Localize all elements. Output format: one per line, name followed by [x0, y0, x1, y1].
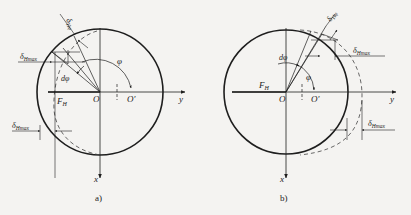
diagram-canvas: δHφ δHmax δHmax dφ φ FH O O′ y x a): [0, 0, 411, 215]
phi-angle-arc: [296, 64, 314, 90]
label-phi: φ: [306, 72, 311, 82]
label-origin: O: [279, 94, 286, 104]
label-x-axis: x: [93, 174, 98, 184]
phi-angle-arc: [82, 59, 131, 88]
label-origin-shifted: O′: [127, 94, 136, 104]
label-dphi: dφ: [61, 74, 70, 83]
label-delta-max-lower: δHmax: [368, 119, 385, 129]
label-dphi: dφ: [279, 53, 288, 62]
radial-line-3: [74, 36, 100, 92]
label-force: FH: [56, 96, 68, 107]
label-force: FH: [258, 80, 270, 91]
radial-line-1: [286, 31, 311, 92]
panel-a: δHφ δHmax δHmax dφ φ FH O O′ y x a): [12, 14, 185, 203]
delta-phi-dim: [78, 40, 88, 48]
dphi-angle-arc: [77, 66, 84, 74]
label-delta-max-lower: δHmax: [12, 121, 29, 131]
label-delta-phi: δHφ: [325, 9, 339, 23]
label-phi: φ: [117, 56, 122, 66]
label-delta-phi: δHφ: [63, 17, 77, 31]
construction-line: [322, 34, 338, 40]
label-x-axis: x: [279, 174, 284, 184]
caption-a: a): [95, 193, 102, 203]
label-y-axis: y: [178, 94, 183, 104]
label-delta-max: δHmax: [20, 52, 37, 62]
dphi-angle-arc: [278, 63, 299, 66]
radial-line-3: [286, 26, 326, 92]
radial-line-2: [63, 48, 100, 92]
panel-b: δHφ δHmax δHmax dφ φ FH O O′ y x b): [224, 9, 396, 203]
label-origin: O: [93, 94, 100, 104]
label-y-axis: y: [389, 94, 394, 104]
label-origin-shifted: O′: [311, 94, 320, 104]
displaced-profile-dashed: [54, 31, 100, 155]
label-delta-max: δHmax: [353, 46, 370, 56]
caption-b: b): [280, 193, 288, 203]
